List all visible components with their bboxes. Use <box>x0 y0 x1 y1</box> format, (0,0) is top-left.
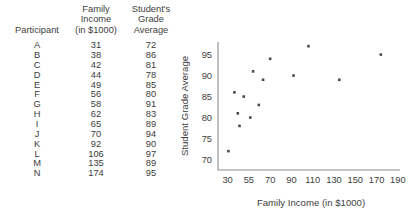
table-body: A3172B3886C4281D4478E4985F5680G5891H6283… <box>6 41 178 179</box>
data-point <box>236 112 239 115</box>
y-axis-tick-label: 85 <box>202 92 212 102</box>
column-header-student-grade-average: Student's Grade Average <box>124 4 178 35</box>
data-point <box>249 116 252 119</box>
y-axis-tick-label: 95 <box>202 50 212 60</box>
data-point <box>227 150 230 153</box>
y-axis-tick-label: 70 <box>202 155 212 165</box>
data-point <box>307 45 310 48</box>
x-axis-tick-label: 70 <box>265 175 275 185</box>
chart-axes <box>218 42 400 170</box>
data-point <box>233 91 236 94</box>
x-axis-tick-label: 110 <box>305 175 320 185</box>
data-point <box>257 104 260 107</box>
y-axis-title: Student Grade Average <box>179 56 190 156</box>
x-axis-tick-label: 170 <box>369 175 385 185</box>
x-axis-tick-label: 190 <box>390 175 406 185</box>
table-row: N17495 <box>6 169 178 179</box>
data-point <box>269 57 272 60</box>
data-point <box>238 125 241 128</box>
x-axis-tick-label: 90 <box>286 175 296 185</box>
data-point <box>292 74 295 77</box>
data-point <box>380 53 383 56</box>
table-header-row: Participant Family Income (in $1000) Stu… <box>6 4 178 35</box>
grade-cell: 95 <box>124 169 178 179</box>
x-axis-tick-label: 150 <box>348 175 364 185</box>
data-point <box>338 78 341 81</box>
y-axis-tick-label: 90 <box>202 71 212 81</box>
y-axis-tick-label: 75 <box>202 134 212 144</box>
income-cell: 174 <box>68 169 124 179</box>
column-header-family-income: Family Income (in $1000) <box>68 4 124 35</box>
x-axis-tick-label: 130 <box>326 175 342 185</box>
x-axis-tick-label: 30 <box>222 175 232 185</box>
data-point <box>252 70 255 73</box>
participant-cell: N <box>6 169 68 179</box>
scatter-plot-svg: 70758085909530557090110130150170190Famil… <box>178 26 406 212</box>
data-point <box>242 95 245 98</box>
data-point <box>262 78 265 81</box>
participant-data-table: Participant Family Income (in $1000) Stu… <box>6 4 178 179</box>
scatter-plot: 70758085909530557090110130150170190Famil… <box>178 26 406 212</box>
y-axis-tick-label: 80 <box>202 113 212 123</box>
x-axis-tick-label: 55 <box>244 175 254 185</box>
x-axis-title: Family Income (in $1000) <box>257 197 365 208</box>
column-header-participant: Participant <box>6 25 68 35</box>
